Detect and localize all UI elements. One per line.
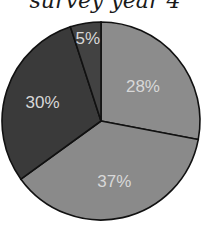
slice-label: 28% — [126, 77, 160, 96]
slice-label: 30% — [26, 93, 60, 112]
slice-label: 37% — [97, 172, 131, 191]
pie-chart: 28%37%30%5% — [0, 0, 210, 227]
slice-label: 5% — [76, 29, 101, 48]
